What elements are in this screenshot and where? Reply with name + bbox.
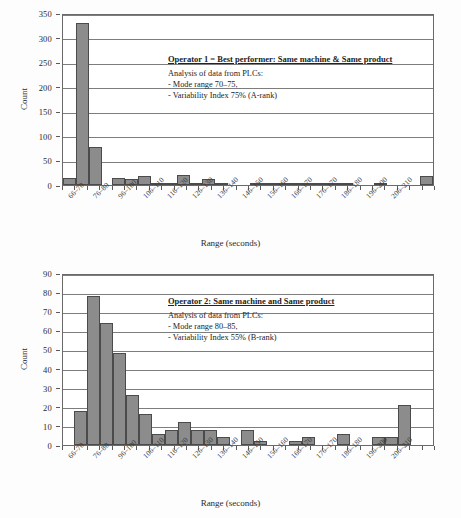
y-axis-title-top: Count: [19, 69, 29, 129]
x-tick-mark: [434, 446, 435, 450]
x-tick-mark: [112, 186, 113, 190]
y-tick-label: 40: [43, 365, 52, 375]
x-tick-mark: [87, 446, 88, 450]
x-tick-mark: [186, 446, 187, 450]
y-tick-label: 10: [43, 422, 52, 432]
y-tick-mark: [56, 312, 60, 313]
y-tick-label: 250: [39, 58, 52, 68]
y-tick-mark: [56, 293, 60, 294]
annotation-title-bottom: Operator 2: Same machine and Same produc…: [168, 296, 334, 307]
x-axis-title-bottom: Range (seconds): [0, 498, 461, 508]
y-tick-mark: [56, 87, 60, 88]
y-tick-label: 60: [43, 326, 52, 336]
y-tick-label: 70: [43, 307, 52, 317]
x-axis-labels-top: 66–7076–8096–100106–110116–120126–130136…: [62, 192, 434, 234]
y-tick-label: 100: [39, 132, 52, 142]
x-tick-mark: [236, 186, 237, 190]
y-tick-mark: [56, 186, 60, 187]
y-tick-mark: [56, 274, 60, 275]
histogram-bar: [74, 411, 87, 445]
x-tick-mark: [260, 446, 261, 450]
annotation-title-top: Operator 1 = Best performer: Same machin…: [168, 54, 392, 65]
x-tick-mark: [236, 446, 237, 450]
x-tick-mark: [186, 186, 187, 190]
y-axis-title-bottom: Count: [19, 329, 29, 389]
y-tick-mark: [56, 112, 60, 113]
annotation-line: - Mode range 80–85,: [168, 321, 334, 332]
x-tick-mark: [422, 186, 423, 190]
y-tick-label: 350: [39, 9, 52, 19]
histogram-bar: [89, 147, 102, 185]
y-tick-mark: [56, 388, 60, 389]
x-tick-mark: [87, 186, 88, 190]
x-tick-mark: [335, 186, 336, 190]
y-tick-label: 0: [48, 441, 52, 451]
x-axis-title-top: Range (seconds): [0, 238, 461, 248]
annotation-line: - Variability Index 75% (A-rank): [168, 90, 392, 101]
y-tick-mark: [56, 426, 60, 427]
x-tick-mark: [422, 446, 423, 450]
x-tick-mark: [285, 446, 286, 450]
x-tick-mark: [434, 186, 435, 190]
y-tick-label: 300: [39, 34, 52, 44]
chart-panel-bottom: 0102030405060708090 Count 66–7076–8096–1…: [0, 260, 461, 518]
x-tick-mark: [62, 446, 63, 450]
histogram-bar: [63, 178, 76, 185]
annotation-line: - Mode range 70–75,: [168, 79, 392, 90]
x-axis-labels-bottom: 66–7076–8096–100106–110116–120126–130136…: [62, 452, 434, 494]
y-tick-mark: [56, 331, 60, 332]
x-tick-mark: [260, 186, 261, 190]
x-tick-mark: [161, 186, 162, 190]
x-tick-mark: [136, 446, 137, 450]
y-tick-label: 50: [43, 345, 52, 355]
x-tick-mark: [335, 446, 336, 450]
y-tick-mark: [56, 446, 60, 447]
y-tick-mark: [56, 14, 60, 15]
histogram-bar: [113, 353, 126, 445]
annotation-top: Operator 1 = Best performer: Same machin…: [168, 54, 392, 101]
annotation-line: Analysis of data from PLCs:: [168, 310, 334, 321]
x-tick-mark: [136, 186, 137, 190]
histogram-bar: [87, 296, 100, 445]
y-tick-label: 30: [43, 384, 52, 394]
annotation-bottom: Operator 2: Same machine and Same produc…: [168, 296, 334, 343]
x-tick-mark: [62, 186, 63, 190]
x-tick-mark: [161, 446, 162, 450]
y-tick-mark: [56, 63, 60, 64]
histogram-bar: [76, 23, 89, 185]
y-tick-mark: [56, 350, 60, 351]
x-tick-mark: [285, 186, 286, 190]
y-tick-mark: [56, 136, 60, 137]
x-tick-mark: [211, 186, 212, 190]
y-tick-label: 150: [39, 107, 52, 117]
y-tick-mark: [56, 161, 60, 162]
x-tick-mark: [360, 186, 361, 190]
y-tick-label: 80: [43, 288, 52, 298]
histogram-bar: [112, 178, 125, 185]
y-tick-mark: [56, 369, 60, 370]
x-tick-mark: [360, 446, 361, 450]
histogram-bar: [139, 414, 152, 445]
x-tick-mark: [310, 446, 311, 450]
annotation-line: Analysis of data from PLCs:: [168, 68, 392, 79]
histogram-bar: [138, 176, 151, 185]
y-tick-label: 20: [43, 403, 52, 413]
y-tick-label: 50: [43, 156, 52, 166]
histogram-bar: [100, 323, 113, 445]
x-tick-mark: [384, 446, 385, 450]
chart-panel-top: 050100150200250300350 Count 66–7076–8096…: [0, 0, 461, 258]
y-tick-label: 200: [39, 83, 52, 93]
x-tick-mark: [211, 446, 212, 450]
y-tick-mark: [56, 407, 60, 408]
x-tick-mark: [310, 186, 311, 190]
x-tick-mark: [112, 446, 113, 450]
x-tick-mark: [409, 186, 410, 190]
histogram-figure: 050100150200250300350 Count 66–7076–8096…: [0, 0, 461, 518]
y-tick-mark: [56, 38, 60, 39]
annotation-line: - Variability Index 55% (B-rank): [168, 332, 334, 343]
histogram-bar: [420, 176, 433, 185]
y-tick-label: 0: [48, 181, 52, 191]
y-tick-label: 90: [43, 269, 52, 279]
x-tick-mark: [384, 186, 385, 190]
x-tick-mark: [409, 446, 410, 450]
